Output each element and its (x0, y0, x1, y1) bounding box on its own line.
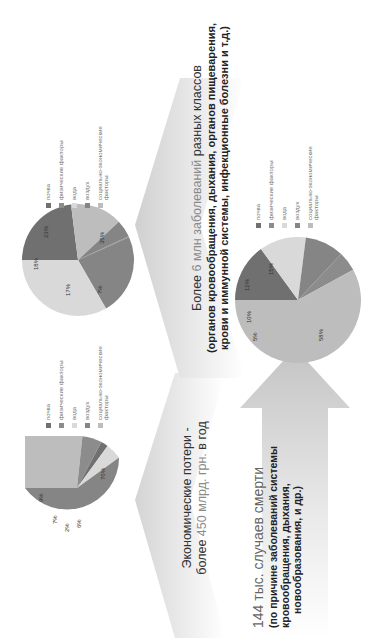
swatch-icon (256, 223, 261, 228)
pie-losses-label-9: 9% (38, 493, 44, 502)
pie-diseases: 23% 35% 7% 17% 18% (22, 204, 134, 316)
legend-item: физические факторы (268, 133, 275, 228)
swatch-icon (85, 423, 90, 428)
legend-item: почва (45, 113, 52, 208)
swatch-icon (98, 423, 103, 428)
deaths-line1: 144 тыс. случаев смерти (250, 408, 267, 628)
pie-deaths: 15% 12% 10% 5% 58% (235, 237, 361, 363)
pie-losses-label-6: 6% (76, 519, 82, 528)
diseases-line2: (органов кровообращения, дыхания, органо… (205, 0, 218, 398)
pie-deaths-label-10: 10% (246, 310, 252, 323)
pie-deaths-label-15: 15% (268, 262, 274, 275)
legend-label: воздух (84, 181, 91, 200)
legend-label: социально-экономические факторы (307, 133, 321, 220)
losses-amount: 450 млрд. грн. (195, 453, 209, 536)
legend-losses: почва физические факторы вода воздух соц… (45, 338, 116, 428)
legend-label: вода (281, 207, 288, 220)
legend-diseases: почва физические факторы вода воздух соц… (45, 113, 116, 208)
legend-label: физические факторы (58, 361, 65, 420)
swatch-icon (295, 223, 300, 228)
legend-label: воздух (84, 401, 91, 420)
legend-label: вода (71, 407, 78, 420)
legend-item: социально-экономические факторы (307, 133, 321, 228)
pie-diseases-label-7: 7% (97, 285, 103, 294)
legend-item: социально-экономические факторы (97, 113, 111, 208)
legend-label: воздух (294, 201, 301, 220)
legend-item: почва (45, 338, 52, 428)
pie-losses-label-2: 2% (64, 523, 70, 532)
losses-text: Экономические потери - более 450 млрд. г… (180, 398, 210, 598)
legend-label: социально-экономические факторы (97, 338, 111, 420)
losses-prefix: более (195, 536, 209, 575)
losses-line2: более 450 млрд. грн. в год (195, 398, 210, 598)
pie-deaths-label-12: 12% (244, 278, 250, 291)
swatch-icon (72, 423, 77, 428)
pie-diseases-label-17: 17% (65, 283, 71, 296)
swatch-icon (59, 203, 64, 208)
legend-label: почва (45, 404, 52, 420)
deaths-text: 144 тыс. случаев смерти (по причине забо… (250, 408, 304, 628)
diseases-suffix: разных классов (190, 65, 204, 160)
pie-deaths-label-58: 58% (318, 328, 324, 341)
legend-item: вода (71, 338, 78, 428)
legend-item: вода (281, 133, 288, 228)
legend-item: воздух (294, 133, 301, 228)
legend-label: почва (255, 204, 262, 220)
pie-deaths-label-5: 5% (252, 332, 258, 341)
pie-losses: 9% 7% 2% 6% 76% (25, 436, 129, 540)
pie-diseases-label-35: 35% (99, 231, 105, 244)
swatch-icon (282, 223, 287, 228)
diseases-line1: Более 6 млн заболеваний разных классов (190, 0, 205, 398)
swatch-icon (269, 223, 274, 228)
legend-deaths: почва физические факторы вода воздух соц… (255, 133, 326, 228)
pie-diseases-label-18: 18% (33, 257, 39, 270)
legend-label: почва (45, 184, 52, 200)
diseases-count: 6 млн заболеваний (190, 160, 204, 272)
diseases-text: Более 6 млн заболеваний разных классов (… (190, 0, 231, 398)
losses-line1: Экономические потери - (180, 398, 195, 598)
swatch-icon (85, 203, 90, 208)
legend-item: социально-экономические факторы (97, 338, 111, 428)
legend-item: воздух (84, 338, 91, 428)
deaths-line3: кровообращения, дыхания, (279, 408, 291, 628)
legend-item: воздух (84, 113, 91, 208)
legend-label: вода (71, 187, 78, 200)
legend-item: вода (71, 113, 78, 208)
swatch-icon (46, 203, 51, 208)
pie-diseases-label-23: 23% (43, 225, 49, 238)
pie-losses-label-7: 7% (52, 515, 58, 524)
legend-label: социально-экономические факторы (97, 113, 111, 200)
diseases-prefix: Более (190, 271, 204, 311)
swatch-icon (98, 203, 103, 208)
deaths-line2: (по причине заболеваний системы (267, 408, 279, 628)
pie-losses-label-76: 76% (100, 467, 106, 480)
swatch-icon (59, 423, 64, 428)
infographic: Экономические потери - более 450 млрд. г… (0, 0, 371, 638)
legend-label: физические факторы (268, 161, 275, 220)
swatch-icon (46, 423, 51, 428)
swatch-icon (308, 223, 313, 228)
losses-suffix: в год (195, 421, 209, 453)
legend-item: физические факторы (58, 113, 65, 208)
swatch-icon (72, 203, 77, 208)
diseases-line3: крови и иммунной системы, инфекционные б… (218, 0, 231, 398)
deaths-line4: новообразования, и др.) (291, 408, 303, 628)
legend-label: физические факторы (58, 141, 65, 200)
legend-item: физические факторы (58, 338, 65, 428)
legend-item: почва (255, 133, 262, 228)
